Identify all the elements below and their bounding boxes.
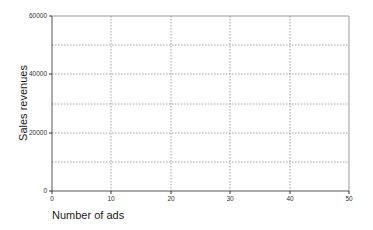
y-tick-labels: 0 20000 40000 60000 bbox=[29, 12, 47, 194]
x-tick-label: 30 bbox=[226, 195, 234, 202]
x-tick-label: 50 bbox=[345, 195, 353, 202]
x-tick-labels: 0 10 20 30 40 50 bbox=[50, 195, 353, 202]
x-tick-label: 20 bbox=[167, 195, 175, 202]
vertical-gridlines bbox=[111, 16, 290, 191]
x-axis-title: Number of ads bbox=[52, 209, 125, 221]
horizontal-gridlines bbox=[52, 45, 349, 162]
x-tick-label: 0 bbox=[50, 195, 54, 202]
y-tick-label: 40000 bbox=[29, 70, 47, 77]
y-axis-title: Sales revenues bbox=[17, 65, 29, 141]
x-tick-label: 40 bbox=[286, 195, 294, 202]
plot-frame bbox=[52, 16, 349, 191]
axes bbox=[52, 16, 349, 191]
y-tick-label: 20000 bbox=[29, 129, 47, 136]
y-tick-label: 60000 bbox=[29, 12, 47, 19]
x-tick-label: 10 bbox=[107, 195, 115, 202]
chart: 0 20000 40000 60000 0 10 20 30 40 50 Num… bbox=[0, 0, 373, 230]
y-tick-label: 0 bbox=[43, 187, 47, 194]
